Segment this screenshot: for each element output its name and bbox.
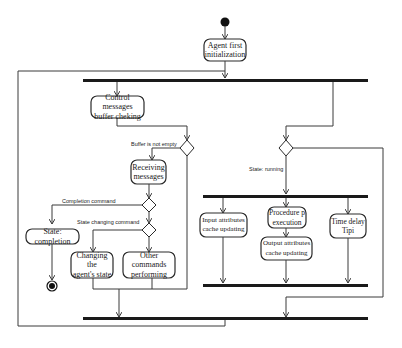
decision-state-change: [142, 223, 156, 237]
fork-bar-top: [83, 79, 368, 82]
decision-completion: [142, 198, 156, 212]
guard-state-running: State: running: [249, 166, 283, 172]
decision-buffer: [180, 140, 194, 156]
procedure-exec-label: Procedure p execution: [268, 207, 306, 228]
control-buffer-label: Control messages buffer cheking: [91, 96, 144, 118]
join-bar-bottom: [83, 317, 368, 320]
state-completion-label: State: completion: [26, 229, 79, 244]
input-attrs-label: Input attributes cache updating: [200, 213, 247, 237]
guard-completion-command: Completion command: [62, 198, 116, 204]
decision-state-running: [279, 140, 293, 156]
receiving-label: Receiving messages: [131, 160, 166, 184]
activity-diagram-canvas: [0, 0, 402, 348]
fork-bar-inner: [203, 195, 368, 198]
time-delay-label: Time delay Tipi: [330, 214, 366, 238]
agent-init-label: Agent first initialization: [204, 39, 246, 61]
guard-buffer-not-empty: Buffer is not empty: [131, 141, 177, 147]
initial-node: [221, 18, 230, 27]
join-bar-inner: [203, 284, 368, 287]
output-attrs-label: Output attributes cache updating: [261, 237, 312, 260]
changing-state-label: Changing the agent's state: [71, 252, 113, 278]
guard-state-changing-command: State changing command: [77, 219, 139, 225]
other-commands-label: Other commands performing: [123, 252, 175, 278]
